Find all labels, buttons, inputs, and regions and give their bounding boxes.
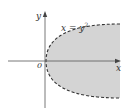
y-axis-arrow-icon bbox=[43, 11, 47, 17]
equation-label: x = y2 bbox=[61, 21, 88, 33]
parabola-region-figure: y x 0 x = y2 bbox=[0, 0, 127, 112]
y-axis-label: y bbox=[35, 11, 42, 21]
x-axis-label: x bbox=[116, 63, 121, 73]
origin-label: 0 bbox=[37, 61, 42, 70]
